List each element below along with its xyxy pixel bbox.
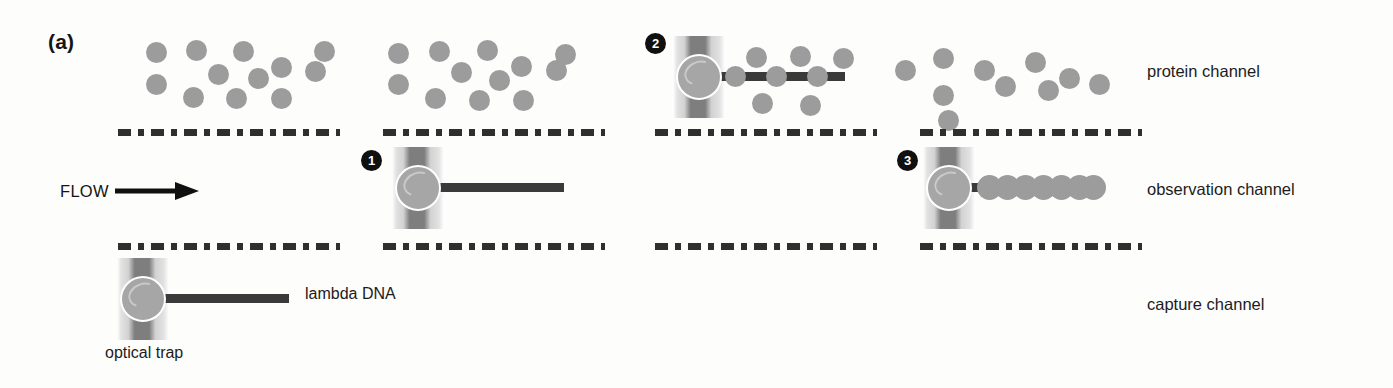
column-step-3: 3 xyxy=(0,0,1140,388)
protein-particle xyxy=(995,76,1016,97)
channel-label-observation: observation channel xyxy=(1147,180,1295,199)
channel-label-capture: capture channel xyxy=(1147,295,1264,314)
channel-divider-top xyxy=(920,129,1142,136)
step-badge-3: 3 xyxy=(897,150,918,171)
protein-particle xyxy=(1038,80,1059,101)
protein-particle xyxy=(1059,68,1080,89)
bound-protein xyxy=(1081,175,1106,200)
protein-particle xyxy=(1089,74,1110,95)
channel-divider-bottom xyxy=(920,243,1142,250)
protein-particle xyxy=(933,48,954,69)
protein-particle xyxy=(938,110,959,131)
protein-particle xyxy=(895,60,916,81)
protein-particle xyxy=(1025,52,1046,73)
channel-label-protein: protein channel xyxy=(1147,62,1260,81)
protein-particle xyxy=(933,85,954,106)
protein-particle xyxy=(974,60,995,81)
protein-cloud-column-4 xyxy=(890,38,1105,130)
figure-canvas: (a) FLOW xyxy=(0,0,1393,388)
trapped-bead xyxy=(926,165,972,211)
